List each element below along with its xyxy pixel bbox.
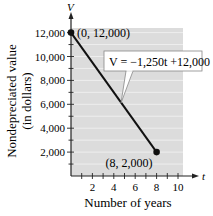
- y-tick-label: 4,000: [40, 122, 65, 134]
- y-axis-title-line-1: Nondepreciated value: [4, 44, 19, 158]
- data-point-label: (0, 12,000): [77, 26, 130, 40]
- data-point: [68, 29, 75, 36]
- y-axis-title-line-2: (in dollars): [19, 72, 34, 129]
- x-tick-label: 10: [173, 181, 185, 193]
- y-axis-arrow-icon: [69, 12, 74, 19]
- x-tick-label: 6: [132, 181, 138, 193]
- y-tick-label: 10,000: [35, 51, 66, 63]
- x-tick-label: 8: [154, 181, 160, 193]
- x-axis-arrow-icon: [192, 174, 199, 179]
- y-axis-ticks: 2,0004,0006,0008,00010,00012,000: [35, 27, 74, 164]
- x-axis-variable: t: [202, 170, 206, 182]
- y-tick-label: 12,000: [35, 27, 66, 39]
- y-tick-label: 8,000: [40, 74, 65, 86]
- x-axis-title: Number of years: [84, 195, 171, 210]
- plot-area: [71, 28, 183, 176]
- data-point-label: (8, 2,000): [106, 156, 153, 170]
- y-tick-label: 6,000: [40, 98, 65, 110]
- chart: 2,0004,0006,0008,00010,00012,000 246810 …: [0, 0, 213, 216]
- data-point: [153, 149, 160, 156]
- y-axis-variable: V: [67, 1, 75, 13]
- y-tick-label: 2,000: [40, 146, 65, 158]
- x-tick-label: 4: [111, 181, 117, 193]
- x-tick-label: 2: [90, 181, 96, 193]
- svg-text:V = −1,250t +12,000: V = −1,250t +12,000: [109, 55, 210, 69]
